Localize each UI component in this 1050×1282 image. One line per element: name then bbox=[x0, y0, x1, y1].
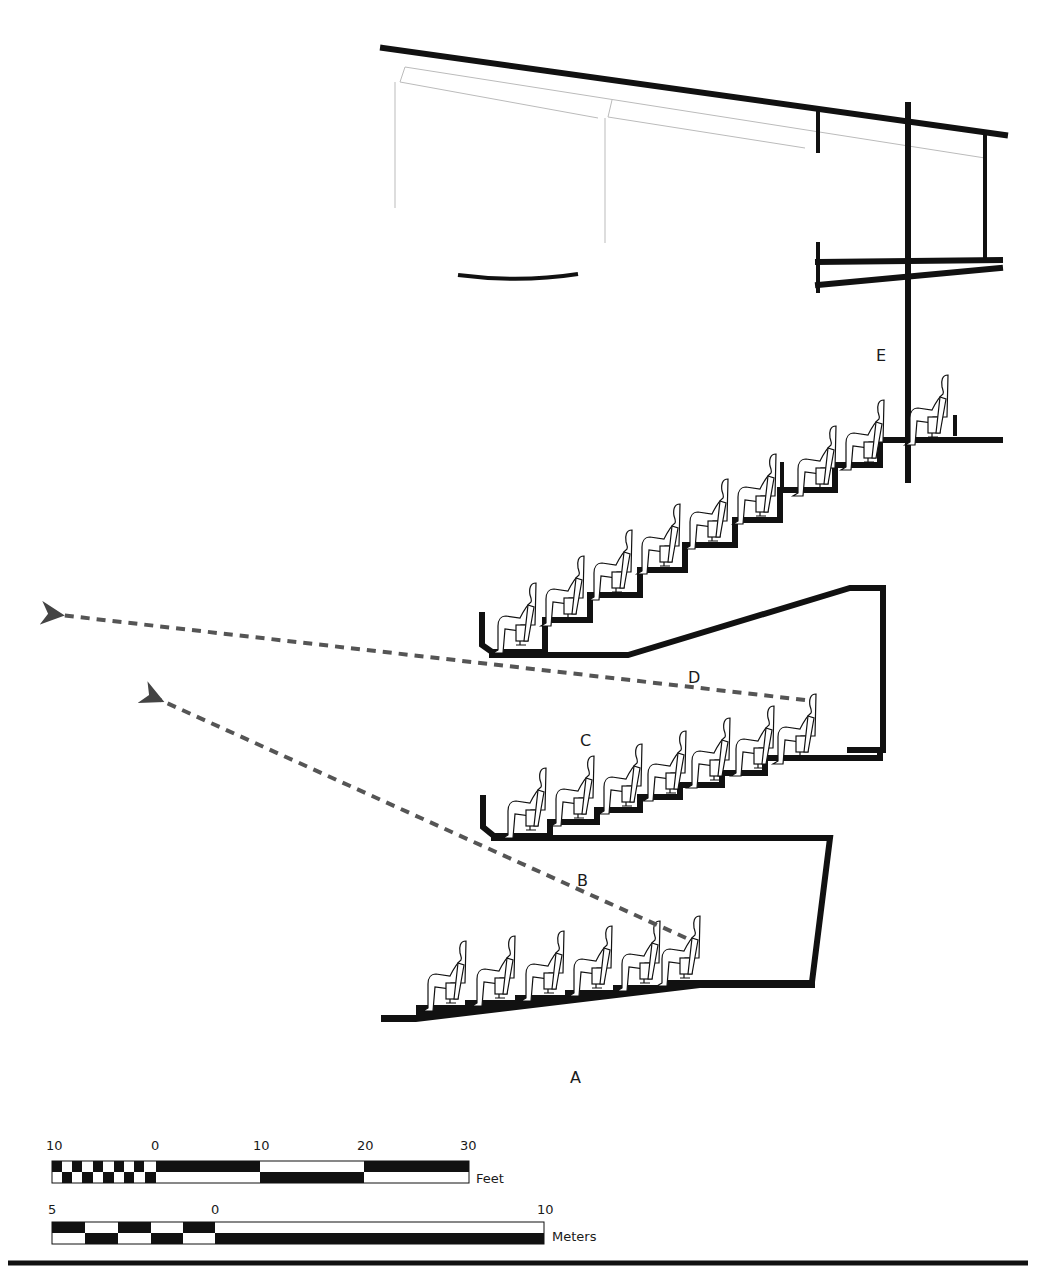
theater-section-diagram: E D C B A 10 0 10 20 30 Feet 5 0 10 Mete… bbox=[0, 0, 1050, 1282]
svg-text:10: 10 bbox=[253, 1138, 270, 1153]
svg-text:Feet: Feet bbox=[476, 1171, 504, 1186]
svg-text:20: 20 bbox=[357, 1138, 374, 1153]
label-e: E bbox=[876, 346, 886, 365]
sightline-d bbox=[60, 615, 805, 700]
svg-text:10: 10 bbox=[46, 1138, 63, 1153]
seated-audience bbox=[423, 375, 948, 1011]
svg-text:5: 5 bbox=[48, 1202, 56, 1217]
svg-text:0: 0 bbox=[151, 1138, 159, 1153]
svg-text:10: 10 bbox=[537, 1202, 554, 1217]
label-a: A bbox=[570, 1068, 581, 1087]
svg-text:30: 30 bbox=[460, 1138, 477, 1153]
sightline-b bbox=[160, 700, 686, 938]
scale-bar-meters: 5 0 10 Meters bbox=[48, 1202, 597, 1244]
label-d: D bbox=[688, 668, 700, 687]
svg-text:0: 0 bbox=[211, 1202, 219, 1217]
upper-balcony bbox=[482, 415, 1000, 750]
label-c: C bbox=[580, 731, 591, 750]
svg-text:Meters: Meters bbox=[552, 1229, 597, 1244]
scale-bar-feet: 10 0 10 20 30 Feet bbox=[46, 1138, 504, 1186]
label-b: B bbox=[577, 871, 588, 890]
